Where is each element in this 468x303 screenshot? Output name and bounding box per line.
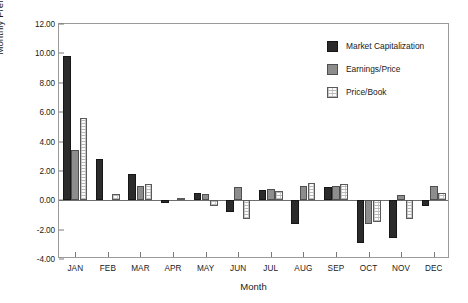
bar[interactable]: [234, 187, 242, 200]
bar[interactable]: [194, 193, 202, 200]
y-tick-label: 8.00: [39, 78, 55, 87]
x-tick-mark: [206, 252, 207, 257]
y-tick-label: 0.00: [39, 196, 55, 205]
bar[interactable]: [259, 190, 267, 200]
legend-swatch-earnings-price: [327, 64, 338, 75]
x-tick-mark: [369, 252, 370, 257]
y-tick-label: 2.00: [39, 166, 55, 175]
bar[interactable]: [430, 186, 438, 201]
bar[interactable]: [96, 159, 104, 200]
bar[interactable]: [275, 191, 283, 200]
legend-label: Price/Book: [346, 87, 387, 97]
y-tick-label: 6.00: [39, 108, 55, 117]
bar[interactable]: [137, 186, 145, 201]
x-tick-mark: [303, 252, 304, 257]
legend-item[interactable]: Earnings/Price: [327, 60, 445, 78]
bar[interactable]: [438, 193, 446, 200]
chart-legend: Market Capitalization Earnings/Price Pri…: [327, 37, 445, 106]
legend-swatch-price-book: [327, 87, 338, 98]
y-axis-title: Monthly Premia (percent): [0, 0, 5, 100]
x-tick-label: APR: [164, 264, 181, 273]
x-tick-mark: [108, 252, 109, 257]
x-tick-mark: [336, 252, 337, 257]
bar[interactable]: [308, 183, 316, 201]
y-tick-mark: [59, 259, 64, 260]
x-tick-label: MAR: [131, 264, 150, 273]
x-tick-label: SEP: [328, 264, 345, 273]
legend-swatch-market-capitalization: [327, 41, 338, 52]
bar[interactable]: [422, 200, 430, 206]
bar[interactable]: [397, 195, 405, 200]
plot-area: 12.0010.008.006.004.002.000.00-2.00-4.00…: [58, 23, 449, 258]
x-tick-mark: [75, 252, 76, 257]
bar[interactable]: [71, 150, 79, 200]
bar[interactable]: [243, 200, 251, 219]
y-tick-mark: [59, 229, 64, 230]
bar[interactable]: [210, 200, 218, 206]
y-tick-mark: [59, 53, 64, 54]
x-tick-label: AUG: [294, 264, 312, 273]
legend-item[interactable]: Market Capitalization: [327, 37, 445, 55]
bar[interactable]: [267, 189, 275, 201]
legend-item[interactable]: Price/Book: [327, 83, 445, 101]
bar[interactable]: [300, 186, 308, 201]
legend-label: Earnings/Price: [346, 64, 400, 74]
x-tick-label: OCT: [360, 264, 378, 273]
bar[interactable]: [324, 187, 332, 200]
x-tick-label: NOV: [392, 264, 410, 273]
y-tick-mark: [59, 24, 64, 25]
y-tick-label: 12.00: [35, 20, 55, 29]
bar[interactable]: [80, 118, 88, 200]
x-tick-mark: [401, 252, 402, 257]
x-tick-label: JAN: [67, 264, 83, 273]
bar[interactable]: [128, 174, 136, 200]
chart-figure: Monthly Premia (percent) 12.0010.008.006…: [0, 0, 468, 303]
bar[interactable]: [145, 184, 153, 200]
bar[interactable]: [357, 200, 365, 243]
y-tick-label: -4.00: [37, 255, 55, 264]
x-tick-label: MAY: [197, 264, 214, 273]
x-axis-title: Month: [58, 281, 449, 292]
bar[interactable]: [112, 194, 120, 200]
bar[interactable]: [291, 200, 299, 224]
bar[interactable]: [365, 200, 373, 224]
bar[interactable]: [389, 200, 397, 238]
x-tick-label: DEC: [425, 264, 443, 273]
bar[interactable]: [161, 200, 169, 203]
x-tick-label: JUN: [230, 264, 246, 273]
x-tick-mark: [140, 252, 141, 257]
x-tick-label: JUL: [263, 264, 278, 273]
x-tick-mark: [238, 252, 239, 257]
x-tick-mark: [173, 252, 174, 257]
bar[interactable]: [202, 194, 210, 200]
x-tick-mark: [434, 252, 435, 257]
legend-label: Market Capitalization: [346, 41, 424, 51]
bar[interactable]: [177, 198, 185, 200]
bar[interactable]: [406, 200, 414, 219]
bar[interactable]: [63, 56, 71, 201]
y-tick-label: 10.00: [35, 49, 55, 58]
x-tick-mark: [271, 252, 272, 257]
x-tick-label: FEB: [100, 264, 116, 273]
y-tick-label: -2.00: [37, 225, 55, 234]
bar[interactable]: [226, 200, 234, 212]
y-tick-label: 4.00: [39, 137, 55, 146]
bar[interactable]: [340, 184, 348, 200]
bar[interactable]: [373, 200, 381, 222]
bar[interactable]: [332, 186, 340, 201]
